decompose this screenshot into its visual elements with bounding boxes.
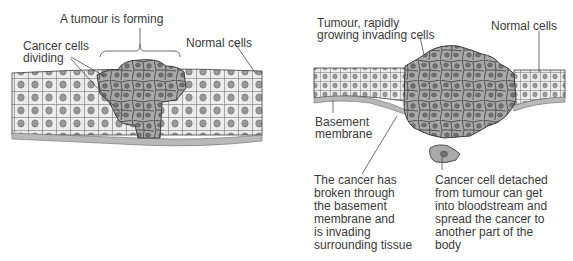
label-tumour-invading-2: growing invading cells <box>317 29 434 42</box>
label-basement-membrane-2: membrane <box>315 128 372 141</box>
label-broken-through: The cancer has broken through the baseme… <box>314 174 412 252</box>
broken-line: surrounding tissue <box>314 239 412 252</box>
label-cancer-cells-dividing-2: dividing <box>23 52 64 65</box>
label-tumour-forming: A tumour is forming <box>60 13 163 26</box>
right-tissue <box>314 46 565 163</box>
detached-line: body <box>435 239 548 252</box>
label-detached-cell: Cancer cell detached from tumour can get… <box>435 174 548 252</box>
left-tissue <box>12 60 262 146</box>
label-normal-cells-left: Normal cells <box>186 37 252 50</box>
tumour-bracket <box>100 44 180 57</box>
label-normal-cells-right: Normal cells <box>491 20 557 33</box>
